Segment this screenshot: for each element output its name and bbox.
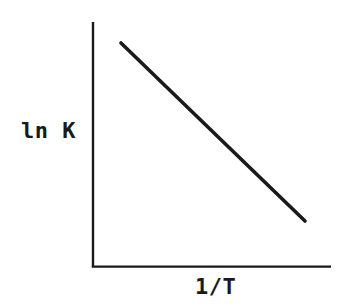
figure-background: [0, 0, 344, 307]
van-t-hoff-plot-figure: ln K 1/T: [0, 0, 344, 307]
plot-canvas: [0, 0, 344, 307]
y-axis-label: ln K: [21, 120, 76, 142]
x-axis-label: 1/T: [195, 276, 236, 298]
